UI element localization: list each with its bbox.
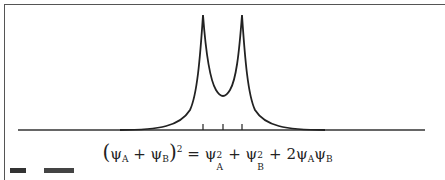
term1-sup: 2 xyxy=(216,150,222,160)
psi-a: ψ xyxy=(110,145,122,163)
term1-psi: ψ xyxy=(205,145,217,163)
equals: = xyxy=(183,145,205,163)
electron-density-curve xyxy=(120,15,325,130)
caption-fragment xyxy=(10,168,26,173)
paren-close: ) xyxy=(169,140,177,164)
term2-sup: 2 xyxy=(257,150,263,160)
plus-two: + 2 xyxy=(264,145,296,163)
plus: + xyxy=(223,145,245,163)
caption-fragment xyxy=(44,168,74,173)
term2-sub: B xyxy=(257,162,264,172)
sub-b: B xyxy=(162,154,169,164)
term3-psi-b: ψ xyxy=(314,145,326,163)
plus: + xyxy=(128,145,150,163)
term3-sub-b: B xyxy=(326,154,333,164)
density-equation: (ψA + ψB)2 = ψ2A + ψ2B + 2ψAψB xyxy=(0,140,435,164)
term3-psi-a: ψ xyxy=(296,145,308,163)
psi-b: ψ xyxy=(151,145,163,163)
term2-psi: ψ xyxy=(246,145,258,163)
term1-sub: A xyxy=(216,162,223,172)
